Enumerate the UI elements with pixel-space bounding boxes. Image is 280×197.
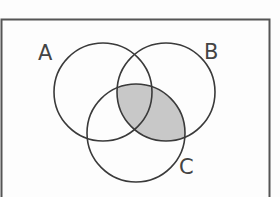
set-b-label: B: [204, 40, 218, 64]
set-c-label: C: [179, 155, 194, 179]
set-a-label: A: [38, 41, 53, 65]
venn-diagram: A B C: [0, 0, 280, 197]
